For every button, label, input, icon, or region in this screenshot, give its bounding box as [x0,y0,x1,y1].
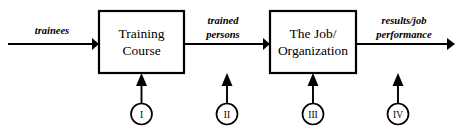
edge-label-line1: trainees [35,25,69,36]
arrowhead-icon [222,73,233,86]
evaluation-marker-1: I [131,73,152,125]
edge-label-results-job-performance: results/job performance [375,15,432,40]
edge-label-line2: performance [375,29,432,40]
box-label-line2: Organization [278,43,348,58]
edge-label-line1: results/job [382,15,427,26]
marker-label: III [308,110,318,120]
flow-arrow-inbound-trainees [8,38,99,50]
edge-label-line1: trained [208,15,240,26]
arrowhead-icon [308,73,319,86]
evaluation-marker-2: II [217,73,238,125]
arrowhead-icon [447,38,455,50]
arrowhead-icon [393,73,404,86]
edge-label-trainees: trainees [35,25,69,36]
marker-label: I [140,110,143,120]
evaluation-marker-4: IV [388,73,409,125]
arrowhead-icon [136,73,147,86]
box-label-line1: The Job/ [290,26,337,41]
flow-diagram: Training Course The Job/ Organization tr… [0,0,462,130]
box-outline [99,11,184,73]
edge-label-line2: persons [205,29,239,40]
evaluation-marker-3: III [303,73,324,125]
box-label-line2: Course [122,43,160,58]
box-outline [270,11,356,73]
marker-label: II [224,110,230,120]
process-box-job-organization: The Job/ Organization [270,11,356,73]
edge-label-trained-persons: trained persons [205,15,239,40]
process-box-training-course: Training Course [99,11,184,73]
marker-label: IV [393,110,403,120]
flow-diagram-canvas: Training Course The Job/ Organization tr… [0,0,462,130]
box-label-line1: Training [118,26,164,41]
